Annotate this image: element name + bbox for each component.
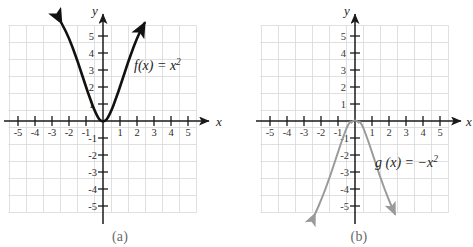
- function-label-g: g (x) = −x2: [375, 154, 438, 171]
- y-tick-label: 4: [89, 48, 95, 59]
- x-tick-label: 3: [151, 127, 156, 138]
- y-tick-label: 3: [89, 65, 94, 76]
- y-tick-label-negative: -4: [340, 184, 350, 195]
- x-tick-label: 1: [369, 127, 374, 138]
- y-axis-label: y: [90, 3, 98, 18]
- x-tick-label: -3: [300, 127, 309, 138]
- x-tick-label: -5: [14, 127, 23, 138]
- panel-b-plot: -5 -4 -3 -2 -1 1 2 3 4 5 1 2 3 4 5 -1 -2: [237, 0, 473, 247]
- y-tick-label-negative: -2: [340, 150, 349, 161]
- y-tick-label-negative: -3: [340, 167, 349, 178]
- x-tick-label: 4: [168, 127, 174, 138]
- figure-root: -5 -4 -3 -2 -1 1 2 3 4 5 1 2 3 4 5 -1 -2: [0, 0, 473, 247]
- x-tick-label: -2: [317, 127, 326, 138]
- y-tick-label-negative: -5: [88, 201, 97, 212]
- y-tick-label-negative: -1: [88, 133, 97, 144]
- x-tick-label: -5: [266, 127, 275, 138]
- y-tick-label: 1: [341, 99, 346, 110]
- panel-caption-b: (b): [237, 229, 473, 245]
- x-tick-labels-b: -5 -4 -3 -2 -1 1 2 3 4 5: [266, 127, 443, 138]
- x-tick-label: 4: [420, 127, 426, 138]
- x-tick-label: 3: [403, 127, 408, 138]
- y-tick-label: 3: [341, 65, 346, 76]
- y-axis-label: y: [342, 3, 350, 18]
- y-tick-label: 2: [341, 82, 346, 93]
- x-tick-label: -2: [65, 127, 74, 138]
- y-tick-label: 2: [89, 82, 94, 93]
- x-tick-label: 1: [117, 127, 122, 138]
- panel-a: -5 -4 -3 -2 -1 1 2 3 4 5 1 2 3 4 5 -1 -2: [0, 0, 236, 247]
- x-tick-label: 5: [437, 127, 442, 138]
- y-tick-label-negative: -5: [340, 201, 349, 212]
- x-tick-labels-a: -5 -4 -3 -2 -1 1 2 3 4 5: [14, 127, 191, 138]
- x-tick-label: 5: [185, 127, 190, 138]
- x-axis-label: x: [465, 114, 472, 129]
- x-tick-label: 2: [134, 127, 139, 138]
- x-tick-label: -4: [283, 127, 292, 138]
- y-tick-label-negative: -3: [88, 167, 97, 178]
- y-tick-label: 5: [89, 31, 94, 42]
- y-tick-label-negative: -2: [88, 150, 97, 161]
- panel-caption-a: (a): [0, 229, 238, 245]
- y-tick-label: 4: [341, 48, 347, 59]
- panel-a-plot: -5 -4 -3 -2 -1 1 2 3 4 5 1 2 3 4 5 -1 -2: [0, 0, 236, 247]
- panel-b: -5 -4 -3 -2 -1 1 2 3 4 5 1 2 3 4 5 -1 -2: [237, 0, 473, 247]
- function-label-f: f(x) = x2: [134, 57, 181, 74]
- x-axis-label: x: [215, 114, 222, 129]
- x-tick-label: 2: [386, 127, 391, 138]
- y-tick-label: 5: [341, 31, 346, 42]
- x-tick-label: -3: [48, 127, 57, 138]
- x-tick-label: -4: [31, 127, 40, 138]
- y-tick-label-negative: -4: [88, 184, 98, 195]
